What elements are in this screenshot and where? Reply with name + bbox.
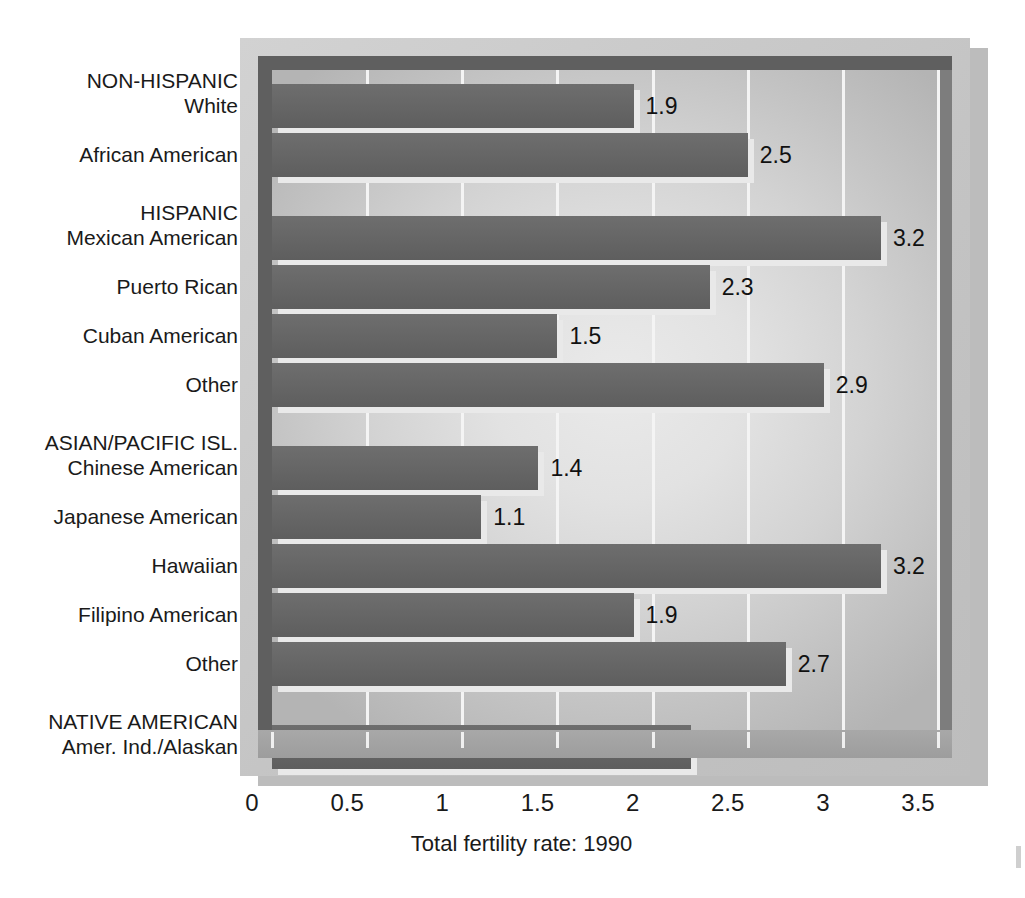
page-edge-artifact xyxy=(1016,846,1021,868)
bar-fill[interactable] xyxy=(272,642,786,686)
category-label-filipino-american: Filipino American xyxy=(78,602,238,627)
bar-row[interactable]: 3.2 xyxy=(272,216,891,260)
group-heading: NATIVE AMERICAN xyxy=(48,709,238,734)
bar-row[interactable]: 1.5 xyxy=(272,314,567,358)
category-name: Mexican American xyxy=(66,225,238,250)
category-name: Amer. Ind./Alaskan xyxy=(48,734,238,759)
bar-row[interactable]: 2.3 xyxy=(272,265,720,309)
bar-row[interactable]: 2.5 xyxy=(272,133,758,177)
category-name: White xyxy=(87,93,238,118)
bar-value-label: 3.2 xyxy=(893,225,925,252)
bar-row[interactable]: 2.7 xyxy=(272,642,796,686)
bar-value-label: 2.3 xyxy=(722,274,754,301)
floor-tick-0 xyxy=(271,732,274,748)
category-name: Hawaiian xyxy=(152,553,238,578)
value-axis-title: Total fertility rate: 1990 xyxy=(0,831,1025,857)
axis-tick-2.5: 2.5 xyxy=(711,789,744,817)
bar-fill[interactable] xyxy=(272,363,824,407)
chart-floor xyxy=(258,730,952,758)
category-label-amer-ind-alaskan: NATIVE AMERICANAmer. Ind./Alaskan xyxy=(48,709,238,759)
floor-tick-3 xyxy=(842,732,845,748)
category-label-other: Other xyxy=(185,372,238,397)
bar-value-label: 1.9 xyxy=(646,602,678,629)
bar-fill[interactable] xyxy=(272,593,634,637)
bar-value-label: 1.9 xyxy=(646,93,678,120)
bar-fill[interactable] xyxy=(272,216,881,260)
bar-row[interactable]: 1.4 xyxy=(272,446,548,490)
bar-fill[interactable] xyxy=(272,84,634,128)
bar-value-label: 2.9 xyxy=(836,372,868,399)
category-label-white: NON-HISPANICWhite xyxy=(87,68,238,118)
axis-tick-3.5: 3.5 xyxy=(901,789,934,817)
group-heading: HISPANIC xyxy=(66,200,238,225)
bar-fill[interactable] xyxy=(272,265,710,309)
value-axis-title-text: Total fertility rate: 1990 xyxy=(411,831,632,857)
category-label-chinese-american: ASIAN/PACIFIC ISL.Chinese American xyxy=(45,430,238,480)
bar-row[interactable]: 1.9 xyxy=(272,593,644,637)
floor-tick-0.5 xyxy=(366,732,369,748)
floor-tick-1.5 xyxy=(556,732,559,748)
bar-row[interactable]: 3.2 xyxy=(272,544,891,588)
bar-value-label: 1.4 xyxy=(550,455,582,482)
category-label-hawaiian: Hawaiian xyxy=(152,553,238,578)
category-name: Filipino American xyxy=(78,602,238,627)
bar-value-label: 3.2 xyxy=(893,553,925,580)
bar-row[interactable]: 1.1 xyxy=(272,495,491,539)
back-wall-top-edge xyxy=(258,56,952,70)
category-label-puerto-rican: Puerto Rican xyxy=(117,274,238,299)
bar-fill[interactable] xyxy=(272,133,748,177)
floor-tick-2 xyxy=(652,732,655,748)
floor-tick-3.5 xyxy=(937,732,940,748)
category-label-japanese-american: Japanese American xyxy=(54,504,238,529)
category-name: Chinese American xyxy=(45,455,238,480)
bar-value-label: 2.7 xyxy=(798,651,830,678)
axis-tick-0: 0 xyxy=(245,789,258,817)
category-label-mexican-american: HISPANICMexican American xyxy=(66,200,238,250)
plot-area: 1.92.53.22.31.52.91.41.13.21.92.72.2 xyxy=(272,70,938,746)
gridline-3.5 xyxy=(937,70,940,746)
category-name: Other xyxy=(185,651,238,676)
axis-tick-1: 1 xyxy=(436,789,449,817)
bar-fill[interactable] xyxy=(272,544,881,588)
category-name: Cuban American xyxy=(83,323,238,348)
gridline-3 xyxy=(842,70,845,746)
group-heading: NON-HISPANIC xyxy=(87,68,238,93)
bar-value-label: 2.5 xyxy=(760,142,792,169)
bar-row[interactable]: 1.9 xyxy=(272,84,644,128)
bar-fill[interactable] xyxy=(272,314,557,358)
category-label-other: Other xyxy=(185,651,238,676)
bar-fill[interactable] xyxy=(272,495,481,539)
category-name: African American xyxy=(79,142,238,167)
bar-fill[interactable] xyxy=(272,446,538,490)
axis-tick-0.5: 0.5 xyxy=(330,789,363,817)
category-label-african-american: African American xyxy=(79,142,238,167)
floor-tick-2.5 xyxy=(747,732,750,748)
axis-tick-2: 2 xyxy=(626,789,639,817)
category-label-cuban-american: Cuban American xyxy=(83,323,238,348)
bar-row[interactable]: 2.9 xyxy=(272,363,834,407)
axis-tick-3: 3 xyxy=(816,789,829,817)
category-name: Japanese American xyxy=(54,504,238,529)
group-heading: ASIAN/PACIFIC ISL. xyxy=(45,430,238,455)
fertility-rate-bar-chart: 1.92.53.22.31.52.91.41.13.21.92.72.2 NON… xyxy=(0,0,1025,898)
back-wall-left-edge xyxy=(258,56,272,758)
category-name: Other xyxy=(185,372,238,397)
axis-tick-1.5: 1.5 xyxy=(521,789,554,817)
floor-tick-1 xyxy=(461,732,464,748)
category-name: Puerto Rican xyxy=(117,274,238,299)
bar-value-label: 1.1 xyxy=(493,504,525,531)
bar-value-label: 1.5 xyxy=(569,323,601,350)
